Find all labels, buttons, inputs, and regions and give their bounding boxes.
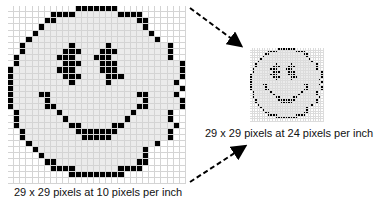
large-smiley-pixel-grid — [8, 6, 186, 184]
arrow-bottom-dashed — [190, 147, 244, 182]
arrow-top-dashed — [190, 8, 240, 45]
large-image-caption: 29 x 29 pixels at 10 pixels per inch — [14, 186, 182, 198]
pixel-cell — [180, 178, 186, 184]
small-image-caption: 29 x 29 pixels at 24 pixels per inch — [205, 127, 373, 139]
small-smiley-pixel-grid — [250, 48, 324, 122]
pixel-cell — [321, 119, 324, 122]
